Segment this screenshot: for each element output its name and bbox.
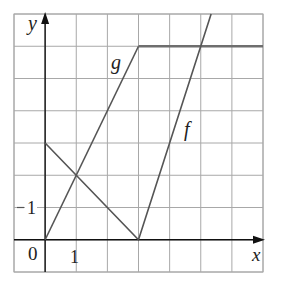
y-axis-label: y (26, 12, 37, 35)
series-label-f: f (184, 118, 192, 141)
y-tick-label-1: 1 (27, 198, 36, 218)
series-label-g: g (111, 51, 121, 74)
origin-label: 0 (28, 243, 38, 264)
x-axis-label: x (251, 244, 261, 265)
x-tick-label-1: 1 (70, 247, 79, 267)
grid-lines (14, 14, 263, 272)
function-graph: y x 0 1 1 g f (0, 0, 283, 287)
